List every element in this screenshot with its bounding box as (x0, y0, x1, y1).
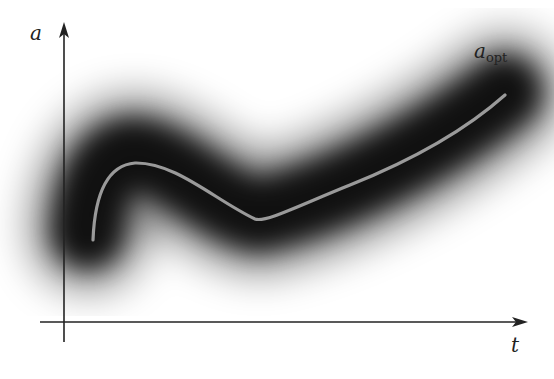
uncertainty-band (88, 92, 505, 232)
y-axis-label: a (30, 21, 42, 45)
x-axis-label: t (511, 333, 520, 357)
curve-label-subscript: opt (486, 50, 508, 65)
x-axis (40, 317, 528, 327)
diagram-canvas: a t aopt (0, 0, 554, 379)
curve-label-main: a (474, 39, 486, 63)
